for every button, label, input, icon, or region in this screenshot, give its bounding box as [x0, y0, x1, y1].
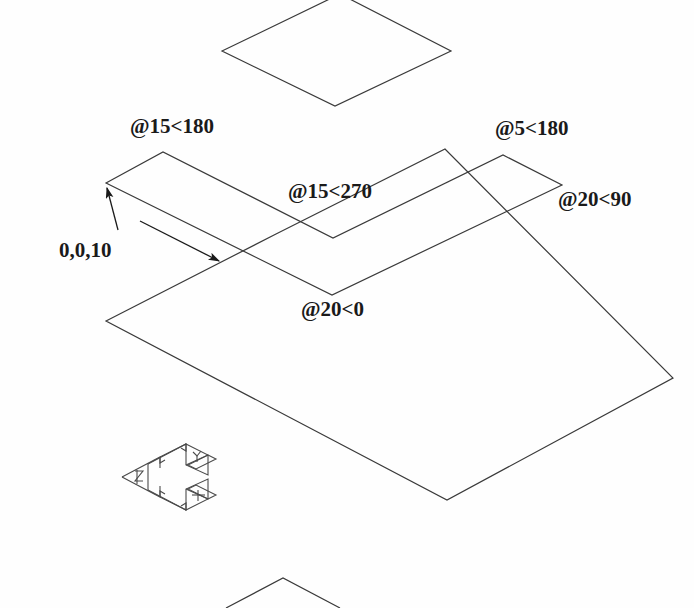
direction-indicator-arrow [140, 221, 219, 261]
label-segment-2: @15<270 [288, 181, 372, 202]
bottom-partial-diamond-shape [226, 578, 340, 608]
label-start-point: 0,0,10 [59, 240, 112, 261]
top-diamond-shape [222, 0, 451, 106]
origin-leader-arrow [107, 188, 118, 230]
ucs-isometric-axis-icon [122, 444, 216, 510]
label-segment-4: @20<90 [558, 189, 632, 210]
label-segment-1: @15<180 [130, 116, 214, 137]
label-segment-5: @5<180 [495, 118, 569, 139]
chevron-band-shape [106, 152, 562, 295]
label-segment-3: @20<0 [301, 299, 364, 320]
